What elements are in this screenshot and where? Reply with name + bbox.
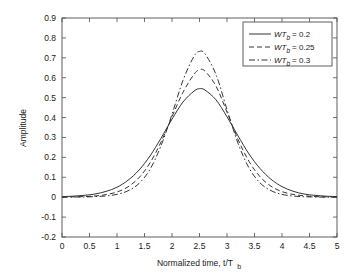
legend-subscript-b: b [286, 60, 290, 67]
data-series-group [62, 51, 337, 197]
chart-figure: 0.90.80.70.60.50.40.30.20.10-0.1-0.2 00.… [0, 0, 355, 280]
y-tick-label: 0.7 [44, 53, 56, 63]
legend-value: = 0.3 [292, 56, 311, 65]
y-tick-label: 0.3 [44, 132, 56, 142]
x-tick-label: 4 [280, 241, 285, 251]
x-tick-label: 3 [225, 241, 230, 251]
y-tick-label: 0 [51, 192, 56, 202]
y-tick-label: 0.9 [44, 13, 56, 23]
legend-value: = 0.25 [292, 43, 315, 52]
x-tick-label: 2 [170, 241, 175, 251]
y-tick-label: 0.4 [44, 113, 56, 123]
x-tick-label: 4.5 [304, 241, 316, 251]
x-tick-label: 5 [335, 241, 340, 251]
chart-svg: 0.90.80.70.60.50.40.30.20.10-0.1-0.2 00.… [0, 0, 355, 280]
y-axis-label: Amplitude [18, 109, 28, 147]
y-tick-label: 0.8 [44, 33, 56, 43]
x-axis-label-main: Normalized time, t/T [157, 258, 233, 268]
x-tick-label: 0.5 [84, 241, 96, 251]
x-tick-label: 1.5 [139, 241, 151, 251]
legend-subscript-b: b [286, 47, 290, 54]
y-tick-label: 0.2 [44, 152, 56, 162]
x-tick-label: 3.5 [249, 241, 261, 251]
y-tick-label: 0.6 [44, 73, 56, 83]
legend[interactable]: WTb= 0.2WTb= 0.25WTb= 0.3 [243, 22, 332, 67]
x-tick-label: 0 [60, 241, 65, 251]
y-tick-label: -0.1 [41, 212, 56, 222]
x-tick-label: 1 [115, 241, 120, 251]
y-tick-label: 0.5 [44, 93, 56, 103]
legend-value: = 0.2 [292, 30, 311, 39]
x-axis-label-subscript: b [237, 263, 241, 270]
y-tick-label: -0.2 [41, 232, 56, 242]
x-tick-label: 2.5 [194, 241, 206, 251]
series-line-0 [62, 89, 337, 197]
legend-subscript-b: b [286, 34, 290, 41]
x-axis-label: Normalized time, t/T b [157, 258, 241, 270]
series-line-2 [62, 51, 337, 197]
y-tick-label: 0.1 [44, 172, 56, 182]
